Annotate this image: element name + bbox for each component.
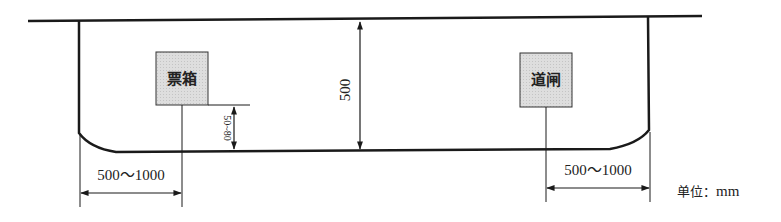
unit-prefix: 单位：: [677, 184, 716, 199]
top-boundary-line: [28, 16, 702, 21]
gate-box: 道闸: [520, 53, 572, 107]
diagram-canvas: 票箱 50~80 500 道闸 500～1000 500～1000 单位：mm: [0, 0, 781, 222]
left-setback-label: 500～1000: [97, 167, 165, 183]
unit-value: mm: [716, 183, 740, 199]
unit-label: 单位：mm: [677, 183, 740, 199]
ticket-box-label: 票箱: [167, 70, 197, 88]
right-setback-label: 500～1000: [564, 162, 632, 178]
ticket-box-offset-label: 50~80: [222, 115, 233, 140]
lane-width-label: 500: [337, 79, 353, 102]
gate-label: 道闸: [531, 71, 561, 89]
ticket-box: 票箱: [156, 52, 208, 105]
